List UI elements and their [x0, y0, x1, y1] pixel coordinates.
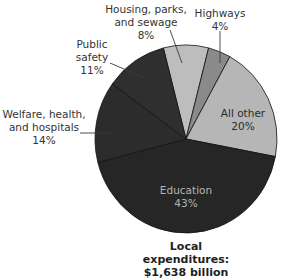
label-welfare-line1: Welfare, health,	[2, 108, 86, 121]
chart-caption: Local expenditures: $1,638 billion	[136, 240, 236, 279]
label-education-line1: Education	[156, 184, 216, 197]
label-highways: Highways 4%	[190, 7, 250, 33]
label-housing: Housing, parks, and sewage 8%	[96, 3, 196, 42]
label-highways-line1: Highways	[190, 7, 250, 20]
label-welfare-line2: and hospitals	[2, 121, 86, 134]
label-all-other-line1: All other	[213, 107, 273, 120]
caption-title: Local expenditures:	[136, 240, 236, 266]
label-education: Education 43%	[156, 184, 216, 210]
label-welfare: Welfare, health, and hospitals 14%	[2, 108, 86, 147]
label-public-safety: Public safety 11%	[67, 38, 117, 77]
label-housing-line2: and sewage	[96, 16, 196, 29]
label-all-other: All other 20%	[213, 107, 273, 133]
label-all-other-pct: 20%	[213, 120, 273, 133]
label-public-safety-line1: Public	[67, 38, 117, 51]
caption-total: $1,638 billion	[136, 266, 236, 279]
label-public-safety-line2: safety	[67, 51, 117, 64]
label-education-pct: 43%	[156, 197, 216, 210]
label-public-safety-pct: 11%	[67, 64, 117, 77]
label-housing-line1: Housing, parks,	[96, 3, 196, 16]
label-highways-pct: 4%	[190, 20, 250, 33]
label-welfare-pct: 14%	[2, 134, 86, 147]
